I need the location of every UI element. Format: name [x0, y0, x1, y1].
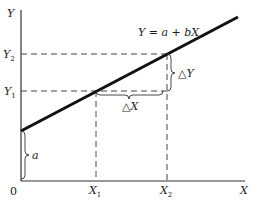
dashed-guides [21, 54, 167, 181]
x-axis-label: X [239, 184, 249, 197]
y-axis-label: Y [7, 7, 16, 20]
intercept-brace [21, 131, 29, 179]
y1-label: Y1 [4, 85, 16, 100]
x2-label: X2 [159, 184, 172, 199]
equation-label: Y = a + bX [138, 26, 200, 39]
regression-line [21, 17, 238, 131]
delta-y-brace [167, 54, 175, 91]
intercept-label: a [32, 149, 39, 162]
delta-y-label: △Y [178, 67, 195, 80]
regression-diagram: a △Y △X Y = a + bX Y X 0 Y2 Y1 X1 X2 [0, 0, 259, 200]
delta-x-brace [96, 91, 163, 99]
x1-label: X1 [88, 184, 101, 199]
y2-label: Y2 [3, 48, 15, 63]
origin-label: 0 [10, 185, 17, 198]
delta-x-label: △X [122, 100, 139, 113]
